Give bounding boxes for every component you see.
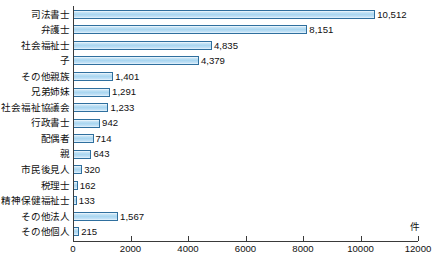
bar-wrapper: 1,401 bbox=[73, 69, 139, 84]
category-label: 弁護士 bbox=[0, 25, 70, 35]
bar-row: その他親族1,401 bbox=[0, 69, 437, 84]
bar-wrapper: 215 bbox=[73, 225, 97, 240]
category-label: 親 bbox=[0, 149, 70, 159]
bar-wrapper: 942 bbox=[73, 116, 118, 131]
bar-row: 社会福祉士4,835 bbox=[0, 38, 437, 53]
bar bbox=[73, 88, 110, 97]
bar-value-label: 320 bbox=[84, 165, 100, 175]
bar-value-label: 162 bbox=[80, 181, 96, 191]
bar-value-label: 942 bbox=[102, 118, 118, 128]
bar-row: 子4,379 bbox=[0, 54, 437, 69]
category-label: 兄弟姉妹 bbox=[0, 87, 70, 97]
bar-wrapper: 714 bbox=[73, 131, 112, 146]
bar-value-label: 1,401 bbox=[115, 72, 139, 82]
bar bbox=[73, 103, 108, 112]
category-label: その他法人 bbox=[0, 212, 70, 222]
category-label: 税理士 bbox=[0, 181, 70, 191]
category-label: その他個人 bbox=[0, 227, 70, 237]
category-label: 子 bbox=[0, 56, 70, 66]
bar-wrapper: 320 bbox=[73, 163, 100, 178]
category-label: 社会福祉協議会 bbox=[0, 103, 70, 113]
x-axis-tick bbox=[188, 236, 189, 241]
bar-chart: 司法書士10,512弁護士8,151社会福祉士4,835子4,379その他親族1… bbox=[0, 0, 437, 265]
bar-wrapper: 4,379 bbox=[73, 54, 225, 69]
bar-value-label: 10,512 bbox=[377, 10, 406, 20]
x-axis-tick-label: 2000 bbox=[120, 244, 141, 254]
bar-wrapper: 1,567 bbox=[73, 209, 144, 224]
x-axis-tick-label: 10000 bbox=[347, 244, 374, 254]
bar-row: 親643 bbox=[0, 147, 437, 162]
bar-wrapper: 4,835 bbox=[73, 38, 238, 53]
x-axis-tick-label: 0 bbox=[70, 244, 75, 254]
x-axis-tick-label: 8000 bbox=[292, 244, 313, 254]
bar bbox=[73, 41, 212, 50]
category-label: その他親族 bbox=[0, 72, 70, 82]
plot-area: 司法書士10,512弁護士8,151社会福祉士4,835子4,379その他親族1… bbox=[0, 0, 437, 265]
category-label: 司法書士 bbox=[0, 10, 70, 20]
bar-row: 市民後見人320 bbox=[0, 163, 437, 178]
bar bbox=[73, 10, 375, 19]
bar-row: 社会福祉協議会1,233 bbox=[0, 100, 437, 115]
bar-row: 兄弟姉妹1,291 bbox=[0, 85, 437, 100]
bar-value-label: 1,233 bbox=[110, 103, 134, 113]
x-axis-tick-label: 12000 bbox=[405, 244, 432, 254]
bar-value-label: 1,567 bbox=[120, 212, 144, 222]
bar-row: 税理士162 bbox=[0, 178, 437, 193]
x-axis-line bbox=[73, 241, 418, 242]
bar-row: 弁護士8,151 bbox=[0, 23, 437, 38]
bar-wrapper: 1,291 bbox=[73, 85, 136, 100]
x-axis-tick-label: 6000 bbox=[235, 244, 256, 254]
x-axis-tick bbox=[361, 236, 362, 241]
x-axis-tick bbox=[418, 236, 419, 241]
bar-value-label: 4,835 bbox=[214, 41, 238, 51]
bar bbox=[73, 212, 118, 221]
bar bbox=[73, 119, 100, 128]
bar-value-label: 643 bbox=[93, 149, 109, 159]
category-label: 精神保健福祉士 bbox=[0, 196, 70, 206]
bar-wrapper: 10,512 bbox=[73, 7, 407, 22]
category-label: 社会福祉士 bbox=[0, 41, 70, 51]
bar-value-label: 1,291 bbox=[112, 87, 136, 97]
bar-value-label: 714 bbox=[96, 134, 112, 144]
bar-row: 精神保健福祉士133 bbox=[0, 194, 437, 209]
bar-row: その他法人1,567 bbox=[0, 209, 437, 224]
bar-wrapper: 8,151 bbox=[73, 23, 333, 38]
bar-value-label: 4,379 bbox=[201, 56, 225, 66]
x-axis-tick bbox=[73, 236, 74, 241]
bar-row: 行政書士942 bbox=[0, 116, 437, 131]
x-axis-tick bbox=[131, 236, 132, 241]
bar-row: その他個人215 bbox=[0, 225, 437, 240]
y-axis-line bbox=[73, 6, 74, 241]
x-axis-tick-label: 4000 bbox=[177, 244, 198, 254]
bar-value-label: 8,151 bbox=[309, 25, 333, 35]
x-axis-unit-label: 件 bbox=[410, 222, 420, 232]
bar bbox=[73, 25, 307, 34]
bar-value-label: 215 bbox=[81, 227, 97, 237]
x-axis-tick bbox=[246, 236, 247, 241]
bar-row: 司法書士10,512 bbox=[0, 7, 437, 22]
bar-wrapper: 1,233 bbox=[73, 100, 134, 115]
bar-value-label: 133 bbox=[79, 196, 95, 206]
bar-wrapper: 162 bbox=[73, 178, 96, 193]
bar bbox=[73, 134, 94, 143]
bar-row: 配偶者714 bbox=[0, 131, 437, 146]
category-label: 市民後見人 bbox=[0, 165, 70, 175]
bar bbox=[73, 72, 113, 81]
bar bbox=[73, 165, 82, 174]
bar-wrapper: 643 bbox=[73, 147, 110, 162]
bar bbox=[73, 56, 199, 65]
x-axis-tick bbox=[303, 236, 304, 241]
category-label: 配偶者 bbox=[0, 134, 70, 144]
bar-wrapper: 133 bbox=[73, 194, 95, 209]
category-label: 行政書士 bbox=[0, 118, 70, 128]
bar bbox=[73, 150, 91, 159]
